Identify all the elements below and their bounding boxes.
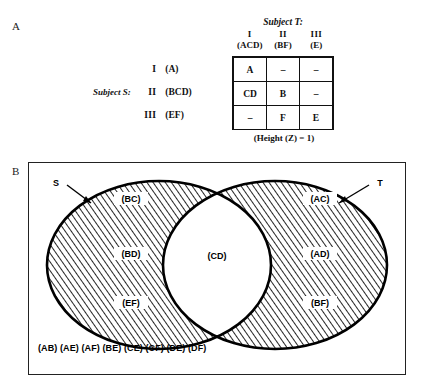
subject-t-title: Subject T: bbox=[233, 17, 333, 27]
subject-s-title: Subject S: bbox=[78, 87, 136, 97]
table-row: CD B – bbox=[234, 82, 333, 106]
column-header-1-set: (ACD) bbox=[233, 40, 266, 51]
cell-r2c1: CD bbox=[234, 82, 267, 106]
venn-label-right-2: (AD) bbox=[311, 249, 330, 259]
row-header-3-roman: III bbox=[136, 110, 157, 120]
cell-r1c3: – bbox=[300, 58, 333, 82]
column-header-2-set: (BF) bbox=[266, 40, 299, 51]
row-header-1-roman: I bbox=[136, 64, 157, 74]
cell-r1c1: A bbox=[234, 58, 267, 82]
cell-r3c2: F bbox=[267, 106, 300, 130]
column-header-3-roman: III bbox=[300, 29, 333, 40]
venn-label-left-2: (BD) bbox=[122, 249, 141, 259]
venn-label-t: T bbox=[377, 178, 383, 188]
cell-r2c3: – bbox=[300, 82, 333, 106]
column-header-2: II (BF) bbox=[266, 29, 299, 51]
venn-label-left-1: (BC) bbox=[122, 194, 141, 204]
row-header-2: Subject S: II (BCD) bbox=[78, 80, 218, 103]
venn-label-s: S bbox=[53, 178, 59, 188]
panel-a-label: A bbox=[12, 20, 20, 32]
venn-label-right-3: (BF) bbox=[311, 298, 329, 308]
row-header-1-set: (A) bbox=[156, 64, 218, 74]
venn-diagram: S T (BC) (BD) (EF) (CD) (AC) (AD) (BF) bbox=[29, 163, 404, 373]
column-header-1: I (ACD) bbox=[233, 29, 266, 51]
cell-r1c2: – bbox=[267, 58, 300, 82]
column-header-3: III (E) bbox=[300, 29, 333, 51]
row-header-2-set: (BCD) bbox=[156, 87, 218, 97]
row-header-1: I (A) bbox=[78, 57, 218, 80]
venn-intersection-labels: (CD) bbox=[208, 251, 227, 261]
column-header-1-roman: I bbox=[233, 29, 266, 40]
panel-b-label: B bbox=[12, 165, 19, 177]
cell-r3c3: E bbox=[300, 106, 333, 130]
row-header-3-set: (EF) bbox=[156, 110, 218, 120]
venn-outside-labels: (AB) (AE) (AF) (BE) (CE) (CF) (DE) (DF) bbox=[38, 343, 206, 353]
table-row: – F E bbox=[234, 106, 333, 130]
venn-label-intersection-1: (CD) bbox=[208, 251, 227, 261]
table-row: A – – bbox=[234, 58, 333, 82]
height-caption: (Height (Z) = 1) bbox=[228, 133, 340, 143]
leader-line-t bbox=[339, 185, 369, 203]
matrix-row-headers: I (A) Subject S: II (BCD) III (EF) bbox=[78, 57, 218, 126]
venn-label-right-1: (AC) bbox=[311, 194, 330, 204]
leader-line-s bbox=[67, 185, 91, 203]
column-header-2-roman: II bbox=[266, 29, 299, 40]
row-header-3: III (EF) bbox=[78, 103, 218, 126]
venn-label-left-3: (EF) bbox=[122, 298, 140, 308]
column-header-3-set: (E) bbox=[300, 40, 333, 51]
cell-r2c2: B bbox=[267, 82, 300, 106]
matrix-column-headers: I (ACD) II (BF) III (E) bbox=[233, 29, 333, 51]
cell-r3c1: – bbox=[234, 106, 267, 130]
row-header-2-roman: II bbox=[136, 87, 157, 97]
intersection-matrix: A – – CD B – – F E bbox=[233, 57, 333, 130]
